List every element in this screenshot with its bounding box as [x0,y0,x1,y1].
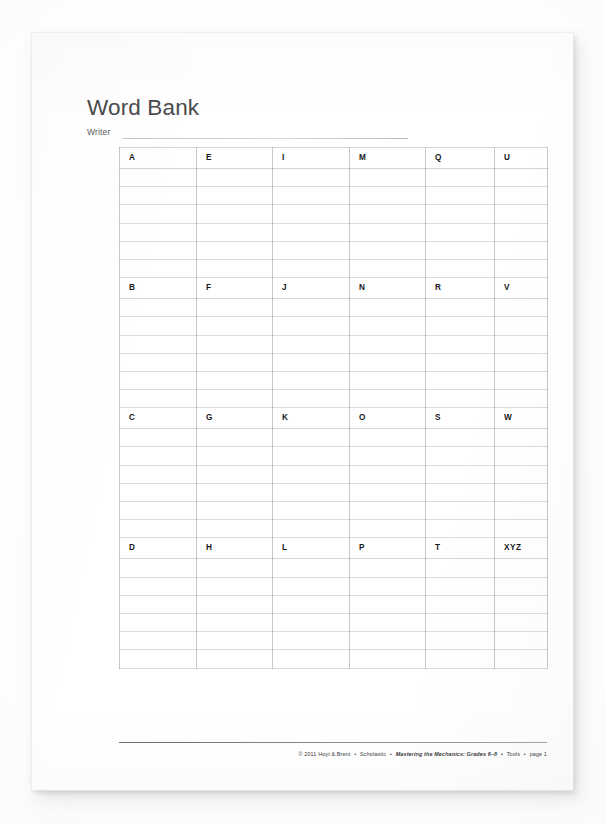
blank-entry-cell[interactable] [120,465,197,483]
blank-entry-cell[interactable] [197,390,273,408]
letter-cell-h[interactable]: H [197,538,273,559]
blank-entry-cell[interactable] [120,317,197,335]
blank-entry-cell[interactable] [426,632,495,650]
blank-entry-cell[interactable] [495,577,548,595]
blank-entry-cell[interactable] [273,595,350,613]
blank-entry-cell[interactable] [426,335,495,353]
blank-entry-cell[interactable] [273,559,350,577]
blank-entry-cell[interactable] [350,502,426,520]
blank-entry-cell[interactable] [273,223,350,241]
blank-entry-cell[interactable] [197,483,273,501]
blank-entry-cell[interactable] [273,259,350,277]
letter-cell-v[interactable]: V [495,278,548,299]
blank-entry-cell[interactable] [426,317,495,335]
blank-entry-cell[interactable] [197,259,273,277]
blank-entry-cell[interactable] [273,465,350,483]
blank-entry-cell[interactable] [273,353,350,371]
blank-entry-cell[interactable] [426,650,495,668]
letter-cell-r[interactable]: R [426,278,495,299]
blank-entry-cell[interactable] [273,205,350,223]
blank-entry-cell[interactable] [426,205,495,223]
blank-entry-cell[interactable] [350,559,426,577]
letter-cell-t[interactable]: T [426,538,495,559]
blank-entry-cell[interactable] [495,187,548,205]
letter-cell-n[interactable]: N [350,278,426,299]
blank-entry-cell[interactable] [495,169,548,187]
blank-entry-cell[interactable] [350,259,426,277]
blank-entry-cell[interactable] [273,632,350,650]
blank-entry-cell[interactable] [197,559,273,577]
blank-entry-cell[interactable] [197,577,273,595]
blank-entry-cell[interactable] [273,613,350,631]
blank-entry-cell[interactable] [426,483,495,501]
blank-entry-cell[interactable] [350,353,426,371]
blank-entry-cell[interactable] [197,187,273,205]
blank-entry-cell[interactable] [495,632,548,650]
blank-entry-cell[interactable] [273,187,350,205]
blank-entry-cell[interactable] [495,317,548,335]
letter-cell-c[interactable]: C [120,408,197,429]
blank-entry-cell[interactable] [197,650,273,668]
letter-cell-l[interactable]: L [273,538,350,559]
blank-entry-cell[interactable] [495,447,548,465]
blank-entry-cell[interactable] [426,465,495,483]
blank-entry-cell[interactable] [495,335,548,353]
blank-entry-cell[interactable] [350,595,426,613]
blank-entry-cell[interactable] [350,650,426,668]
blank-entry-cell[interactable] [273,317,350,335]
blank-entry-cell[interactable] [273,335,350,353]
blank-entry-cell[interactable] [350,632,426,650]
blank-entry-cell[interactable] [197,371,273,389]
blank-entry-cell[interactable] [495,429,548,447]
blank-entry-cell[interactable] [120,650,197,668]
blank-entry-cell[interactable] [426,429,495,447]
blank-entry-cell[interactable] [120,187,197,205]
blank-entry-cell[interactable] [495,613,548,631]
blank-entry-cell[interactable] [495,465,548,483]
blank-entry-cell[interactable] [273,650,350,668]
blank-entry-cell[interactable] [350,299,426,317]
letter-cell-xyz[interactable]: XYZ [495,538,548,559]
blank-entry-cell[interactable] [197,241,273,259]
letter-cell-i[interactable]: I [273,148,350,169]
blank-entry-cell[interactable] [350,187,426,205]
blank-entry-cell[interactable] [495,390,548,408]
blank-entry-cell[interactable] [120,371,197,389]
blank-entry-cell[interactable] [495,241,548,259]
blank-entry-cell[interactable] [495,353,548,371]
blank-entry-cell[interactable] [350,429,426,447]
blank-entry-cell[interactable] [426,371,495,389]
blank-entry-cell[interactable] [350,465,426,483]
blank-entry-cell[interactable] [426,559,495,577]
blank-entry-cell[interactable] [197,205,273,223]
blank-entry-cell[interactable] [495,520,548,538]
blank-entry-cell[interactable] [197,632,273,650]
blank-entry-cell[interactable] [120,205,197,223]
letter-cell-a[interactable]: A [120,148,197,169]
blank-entry-cell[interactable] [495,483,548,501]
letter-cell-p[interactable]: P [350,538,426,559]
letter-cell-d[interactable]: D [120,538,197,559]
blank-entry-cell[interactable] [495,502,548,520]
blank-entry-cell[interactable] [350,205,426,223]
blank-entry-cell[interactable] [120,241,197,259]
letter-cell-b[interactable]: B [120,278,197,299]
blank-entry-cell[interactable] [426,447,495,465]
blank-entry-cell[interactable] [120,483,197,501]
writer-input-line[interactable] [123,138,408,139]
blank-entry-cell[interactable] [426,169,495,187]
blank-entry-cell[interactable] [120,613,197,631]
blank-entry-cell[interactable] [426,613,495,631]
blank-entry-cell[interactable] [120,259,197,277]
blank-entry-cell[interactable] [350,577,426,595]
blank-entry-cell[interactable] [120,520,197,538]
blank-entry-cell[interactable] [197,429,273,447]
blank-entry-cell[interactable] [350,447,426,465]
blank-entry-cell[interactable] [273,502,350,520]
blank-entry-cell[interactable] [120,429,197,447]
blank-entry-cell[interactable] [350,371,426,389]
blank-entry-cell[interactable] [495,371,548,389]
blank-entry-cell[interactable] [426,223,495,241]
blank-entry-cell[interactable] [495,205,548,223]
blank-entry-cell[interactable] [350,317,426,335]
